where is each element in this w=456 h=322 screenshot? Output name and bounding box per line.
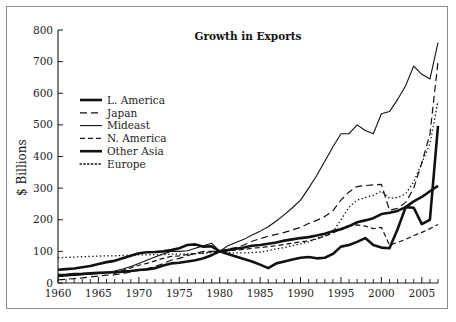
x-minor-tick-group [66,279,438,283]
legend-label-other-asia: Other Asia [107,145,164,157]
chart-legend: L. AmericaJapanMideastN. AmericaOther As… [80,94,166,170]
series-line-n-america [58,224,438,276]
legend-label-europe: Europe [107,158,146,170]
x-tick-label: 2005 [408,287,435,299]
chart-title: Growth in Exports [195,30,302,42]
y-axis-title: $ Billions [15,139,29,196]
y-tick-label: 100 [33,245,53,257]
y-tick-label: 700 [33,55,53,67]
x-tick-label: 1975 [166,287,193,299]
x-tick-label: 1995 [328,287,355,299]
legend-label-japan: Japan [106,107,137,119]
x-tick-label: 1960 [45,287,72,299]
y-tick-label-group: 0100200300400500600700800 [33,24,53,289]
x-tick-label: 1965 [85,287,112,299]
y-tick-label: 200 [33,213,53,225]
y-tick-label: 300 [33,182,53,194]
x-tick-label-group: 1960196519701975198019851990199520002005 [45,287,436,299]
y-tick-group [58,30,63,283]
legend-label-mideast: Mideast [107,119,151,131]
y-tick-label: 600 [33,87,53,99]
x-tick-group [58,277,422,283]
legend-label-l-america: L. America [107,94,165,106]
y-tick-label: 500 [33,118,53,130]
legend-label-n-america: N. America [107,132,166,144]
x-tick-label: 1985 [247,287,274,299]
x-tick-label: 1990 [287,287,314,299]
x-tick-label: 1970 [125,287,152,299]
chart-figure: 0100200300400500600700800 19601965197019… [0,0,456,322]
chart-plot-area: 0100200300400500600700800 19601965197019… [0,0,456,322]
x-tick-label: 1980 [206,287,233,299]
y-tick-label: 400 [33,150,53,162]
x-tick-label: 2000 [368,287,395,299]
y-tick-label: 800 [33,24,53,36]
